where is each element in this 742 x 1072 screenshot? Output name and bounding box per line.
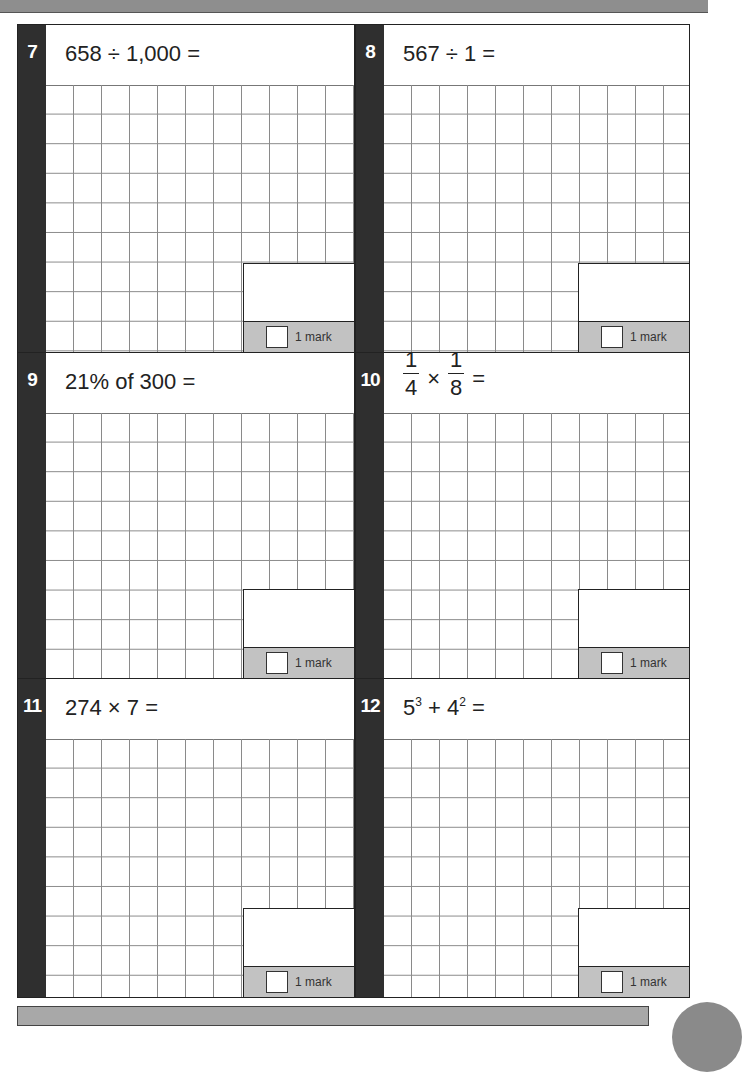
question-header: 53 + 42 = [384, 679, 689, 740]
numerator: 1 [448, 349, 464, 374]
question-number: 11 [18, 679, 46, 997]
question-header: 1 4 × 1 8 = [384, 353, 689, 414]
question-header: 274 × 7 = [46, 679, 354, 740]
mark-band: 1 mark [579, 321, 689, 352]
mark-label: 1 mark [630, 330, 667, 344]
answer-box[interactable]: 1 mark [243, 589, 354, 678]
mark-label: 1 mark [630, 975, 667, 989]
numerator: 1 [403, 349, 419, 374]
answer-box[interactable]: 1 mark [578, 908, 689, 997]
multiply-operator: × [427, 366, 440, 391]
mark-band: 1 mark [244, 966, 354, 997]
page-number-circle [672, 1002, 742, 1072]
question-number: 10 [356, 353, 384, 678]
question-row-1: 7 658 ÷ 1,000 = 1 mark 8 567 ÷ 1 = 1 mar… [17, 24, 690, 353]
fraction-one-eighth: 1 8 [448, 349, 464, 399]
mark-band: 1 mark [244, 647, 354, 678]
mark-label: 1 mark [295, 975, 332, 989]
mark-label: 1 mark [295, 656, 332, 670]
question-text: 53 + 42 = [403, 695, 485, 721]
base-b: 4 [447, 695, 459, 720]
mark-checkbox[interactable] [601, 652, 623, 674]
question-header: 567 ÷ 1 = [384, 25, 689, 86]
question-text: 21% of 300 = [65, 369, 195, 395]
question-text: 274 × 7 = [65, 695, 158, 721]
question-number: 12 [356, 679, 384, 997]
denominator: 8 [448, 374, 464, 399]
question-header: 658 ÷ 1,000 = [46, 25, 354, 86]
question-11: 11 274 × 7 = 1 mark [17, 678, 355, 998]
question-row-2: 9 21% of 300 = 1 mark 10 1 4 × 1 8 = [17, 352, 690, 679]
plus-operator: + [428, 695, 441, 720]
question-8: 8 567 ÷ 1 = 1 mark [355, 24, 690, 353]
question-text: 1 4 × 1 8 = [403, 359, 493, 399]
question-12: 12 53 + 42 = 1 mark [355, 678, 690, 998]
question-10: 10 1 4 × 1 8 = 1 mark [355, 352, 690, 679]
mark-band: 1 mark [244, 321, 354, 352]
exponent-b: 2 [459, 695, 466, 709]
question-number: 8 [356, 25, 384, 352]
question-text: 567 ÷ 1 = [403, 41, 495, 67]
question-number: 9 [18, 353, 46, 678]
equals-sign: = [472, 366, 485, 391]
question-row-3: 11 274 × 7 = 1 mark 12 53 + 42 = 1 mar [17, 678, 690, 998]
question-7: 7 658 ÷ 1,000 = 1 mark [17, 24, 355, 353]
footer-bar [17, 1006, 649, 1026]
question-number: 7 [18, 25, 46, 352]
mark-label: 1 mark [630, 656, 667, 670]
mark-checkbox[interactable] [266, 971, 288, 993]
answer-box[interactable]: 1 mark [578, 263, 689, 352]
answer-box[interactable]: 1 mark [243, 908, 354, 997]
mark-checkbox[interactable] [601, 326, 623, 348]
mark-checkbox[interactable] [601, 971, 623, 993]
question-header: 21% of 300 = [46, 353, 354, 414]
exponent-a: 3 [415, 695, 422, 709]
mark-band: 1 mark [579, 966, 689, 997]
mark-label: 1 mark [295, 330, 332, 344]
mark-checkbox[interactable] [266, 326, 288, 348]
mark-checkbox[interactable] [266, 652, 288, 674]
fraction-one-quarter: 1 4 [403, 349, 419, 399]
answer-box[interactable]: 1 mark [578, 589, 689, 678]
question-text: 658 ÷ 1,000 = [65, 41, 200, 67]
base-a: 5 [403, 695, 415, 720]
mark-band: 1 mark [579, 647, 689, 678]
equals-sign: = [472, 695, 485, 720]
question-9: 9 21% of 300 = 1 mark [17, 352, 355, 679]
top-header-bar [0, 0, 708, 13]
answer-box[interactable]: 1 mark [243, 263, 354, 352]
denominator: 4 [403, 374, 419, 399]
